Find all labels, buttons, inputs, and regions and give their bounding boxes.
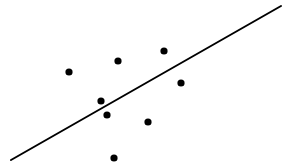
- data-point-8: [110, 154, 117, 161]
- scatter-plot: [0, 0, 293, 167]
- data-point-6: [103, 111, 110, 118]
- data-point-5: [97, 97, 104, 104]
- data-point-1: [65, 68, 72, 75]
- data-point-3: [160, 47, 167, 54]
- data-point-7: [144, 118, 151, 125]
- data-point-4: [177, 79, 184, 86]
- data-point-2: [114, 57, 121, 64]
